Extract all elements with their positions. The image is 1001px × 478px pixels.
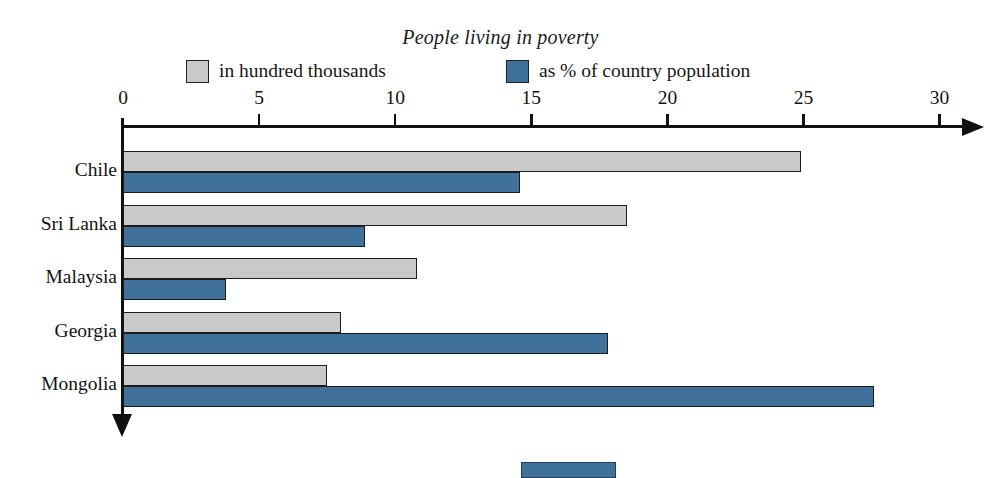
bar-georgia-series-1 <box>123 333 608 354</box>
bar-malaysia-series-0 <box>123 258 417 279</box>
bar-malaysia-series-1 <box>123 279 226 300</box>
category-label-mongolia: Mongolia <box>5 373 117 395</box>
category-label-sri-lanka: Sri Lanka <box>5 213 117 235</box>
bar-chile-series-1 <box>123 172 520 193</box>
category-label-wrap: Sri Lanka <box>0 213 117 239</box>
bar-sri-lanka-series-1 <box>123 226 365 247</box>
category-label-wrap: Malaysia <box>0 266 117 292</box>
category-label-wrap: Mongolia <box>0 373 117 399</box>
category-label-wrap: Georgia <box>0 320 117 346</box>
category-label-malaysia: Malaysia <box>5 266 117 288</box>
category-label-georgia: Georgia <box>5 320 117 342</box>
bar-chile-series-0 <box>123 151 801 172</box>
bar-mongolia-series-1 <box>123 386 874 407</box>
bar-georgia-series-0 <box>123 312 341 333</box>
bar-sri-lanka-series-0 <box>123 205 627 226</box>
category-label-chile: Chile <box>5 159 117 181</box>
bottom-legend-fragment-swatch <box>521 462 616 478</box>
category-label-wrap: Chile <box>0 159 117 185</box>
bar-mongolia-series-0 <box>123 365 327 386</box>
